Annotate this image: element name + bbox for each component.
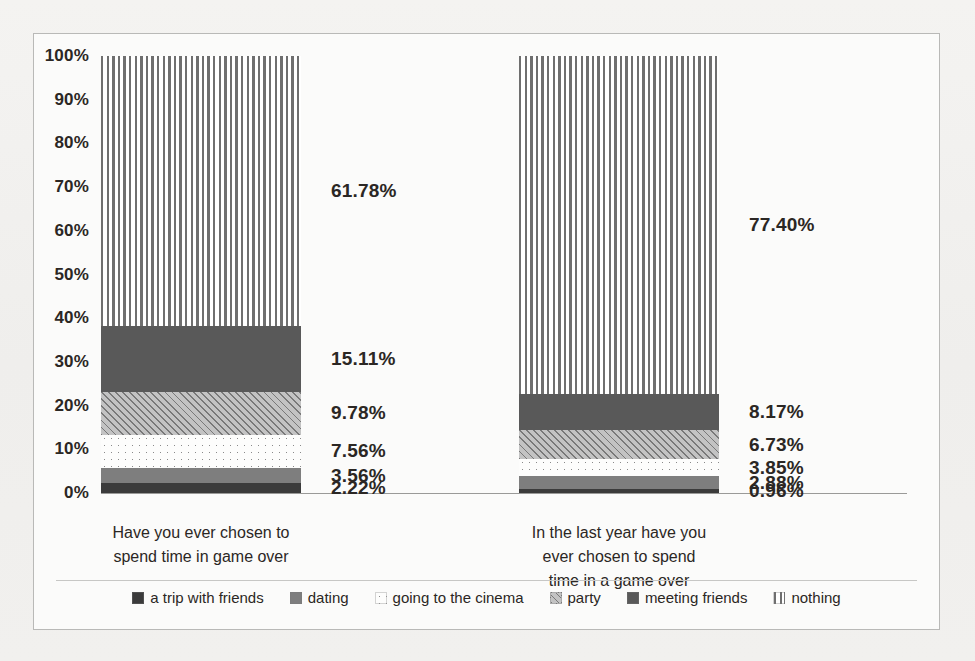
bar-segment-going-to-the-cinema[interactable] — [101, 435, 301, 468]
y-axis-tick-40: 40% — [54, 308, 89, 328]
data-label-party-0: 9.78% — [331, 402, 386, 424]
data-label-going-to-the-cinema-1: 3.85% — [749, 457, 804, 479]
category-label-0-line-0: Have you ever chosen to — [51, 521, 351, 545]
plot-area: 0%10%20%30%40%50%60%70%80%90%100% 2.22%3… — [101, 56, 907, 493]
y-axis-tick-100: 100% — [45, 46, 89, 66]
data-label-meeting-friends-1: 8.17% — [749, 401, 804, 423]
bar-segment-meeting-friends[interactable] — [101, 326, 301, 392]
bar-column-1[interactable] — [519, 56, 719, 493]
data-label-going-to-the-cinema-0: 7.56% — [331, 440, 386, 462]
bar-segment-party[interactable] — [101, 392, 301, 435]
bar-segment-meeting-friends[interactable] — [519, 394, 719, 430]
legend-swatch-icon-going-to-the-cinema — [375, 592, 387, 604]
category-label-0: Have you ever chosen tospend time in gam… — [51, 521, 351, 569]
y-axis-tick-50: 50% — [54, 265, 89, 285]
bar-segment-nothing[interactable] — [101, 56, 301, 326]
y-axis-tick-70: 70% — [54, 177, 89, 197]
legend-item-dating[interactable]: dating — [290, 589, 349, 606]
legend-swatch-icon-dating — [290, 592, 302, 604]
legend-item-nothing[interactable]: nothing — [773, 589, 840, 606]
chart-frame: 0%10%20%30%40%50%60%70%80%90%100% 2.22%3… — [33, 33, 940, 630]
legend-item-party[interactable]: party — [550, 589, 601, 606]
data-label-nothing-1: 77.40% — [749, 214, 815, 236]
legend-label: a trip with friends — [150, 589, 263, 606]
y-axis-tick-0: 0% — [64, 483, 89, 503]
legend-label: party — [568, 589, 601, 606]
y-axis-tick-60: 60% — [54, 221, 89, 241]
chart-legend: a trip with friendsdatinggoing to the ci… — [34, 589, 939, 606]
legend-swatch-icon-a-trip-with-friends — [132, 592, 144, 604]
data-label-meeting-friends-0: 15.11% — [331, 348, 396, 370]
legend-label: nothing — [791, 589, 840, 606]
category-label-0-line-1: spend time in game over — [51, 545, 351, 569]
data-label-dating-0: 3.56% — [331, 465, 386, 487]
legend-label: dating — [308, 589, 349, 606]
legend-swatch-icon-party — [550, 592, 562, 604]
legend-label: going to the cinema — [393, 589, 524, 606]
bar-segment-a-trip-with-friends[interactable] — [519, 489, 719, 493]
y-axis-tick-30: 30% — [54, 352, 89, 372]
y-axis-tick-80: 80% — [54, 133, 89, 153]
legend-item-meeting-friends[interactable]: meeting friends — [627, 589, 748, 606]
bar-column-0[interactable] — [101, 56, 301, 493]
legend-swatch-icon-meeting-friends — [627, 592, 639, 604]
legend-swatch-icon-nothing — [773, 592, 785, 604]
category-label-1-line-0: In the last year have you — [469, 521, 769, 545]
y-axis-tick-10: 10% — [54, 439, 89, 459]
data-label-party-1: 6.73% — [749, 434, 804, 456]
bar-segment-dating[interactable] — [101, 468, 301, 484]
legend-item-going-to-the-cinema[interactable]: going to the cinema — [375, 589, 524, 606]
legend-label: meeting friends — [645, 589, 748, 606]
bar-segment-dating[interactable] — [519, 476, 719, 489]
legend-item-a-trip-with-friends[interactable]: a trip with friends — [132, 589, 263, 606]
bar-segment-nothing[interactable] — [519, 56, 719, 394]
legend-divider — [56, 580, 917, 581]
bar-segment-a-trip-with-friends[interactable] — [101, 483, 301, 493]
category-label-1: In the last year have youever chosen to … — [469, 521, 769, 593]
bar-segment-going-to-the-cinema[interactable] — [519, 459, 719, 476]
category-label-1-line-1: ever chosen to spend — [469, 545, 769, 569]
y-axis-tick-90: 90% — [54, 90, 89, 110]
data-label-nothing-0: 61.78% — [331, 180, 397, 202]
y-axis-tick-20: 20% — [54, 396, 89, 416]
bar-segment-party[interactable] — [519, 430, 719, 459]
